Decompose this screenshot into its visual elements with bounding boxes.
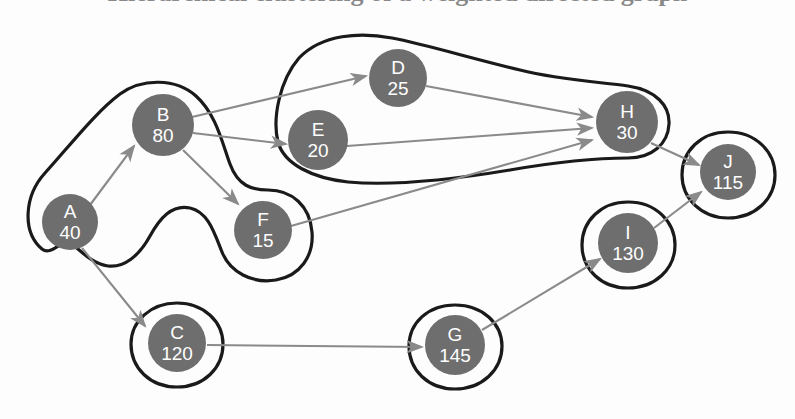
node-value-I: 130 <box>612 243 644 264</box>
edge-a-c <box>82 248 145 326</box>
node-id-G: G <box>448 324 463 345</box>
graph-node-A[interactable]: A40 <box>42 194 98 250</box>
graph-node-J[interactable]: J115 <box>700 144 756 200</box>
node-id-A: A <box>64 201 77 222</box>
node-id-E: E <box>312 119 325 140</box>
graph-node-G[interactable]: G145 <box>425 315 485 375</box>
edge-b-d <box>192 76 366 117</box>
node-value-E: 20 <box>307 140 328 161</box>
node-value-G: 145 <box>439 345 471 366</box>
node-id-C: C <box>170 322 184 343</box>
edge-i-j <box>654 192 701 228</box>
node-value-H: 30 <box>616 122 637 143</box>
node-value-F: 15 <box>252 230 273 251</box>
edge-g-i <box>482 259 600 330</box>
edge-a-b <box>90 146 134 205</box>
graph-node-H[interactable]: H30 <box>596 91 658 153</box>
graph-node-B[interactable]: B80 <box>132 94 194 156</box>
node-id-D: D <box>391 57 405 78</box>
node-id-H: H <box>620 101 634 122</box>
node-value-C: 120 <box>161 343 193 364</box>
node-id-F: F <box>257 209 269 230</box>
edge-d-h <box>426 86 592 117</box>
graph-node-E[interactable]: E20 <box>288 110 348 170</box>
node-id-B: B <box>157 104 170 125</box>
graph-node-I[interactable]: I130 <box>598 213 658 273</box>
node-id-J: J <box>723 151 733 172</box>
node-value-J: 115 <box>713 172 743 193</box>
diagram-canvas: Hierarchical clustering of a weighted di… <box>0 0 795 419</box>
edge-c-g <box>207 345 422 347</box>
graph-node-C[interactable]: C120 <box>148 314 206 372</box>
edge-b-f <box>183 150 238 204</box>
node-id-I: I <box>625 222 630 243</box>
graph-node-F[interactable]: F15 <box>234 201 292 259</box>
edge-b-e <box>193 133 286 144</box>
graph-node-D[interactable]: D25 <box>369 49 427 107</box>
graph-nodes: A40B80C120D25E20F15G145H30I130J115 <box>42 49 756 375</box>
node-value-D: 25 <box>387 78 408 99</box>
node-value-B: 80 <box>152 125 173 146</box>
graph-svg: A40B80C120D25E20F15G145H30I130J115 <box>0 0 795 419</box>
edge-e-h <box>347 128 592 146</box>
node-value-A: 40 <box>59 222 80 243</box>
